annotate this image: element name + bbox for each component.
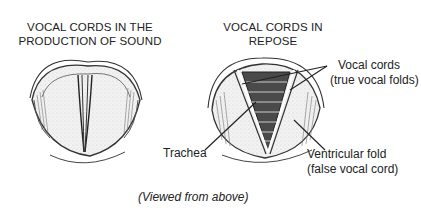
trachea-label: Trachea <box>163 146 207 161</box>
larynx-phonation-drawing <box>30 60 142 163</box>
ventricular-fold-label: Ventricular fold (false vocal cord) <box>307 147 398 177</box>
vocal-cords-label: Vocal cords (true vocal folds) <box>330 58 419 88</box>
larynx-illustrations <box>0 0 421 215</box>
figure-caption: (Viewed from above) <box>138 190 249 204</box>
